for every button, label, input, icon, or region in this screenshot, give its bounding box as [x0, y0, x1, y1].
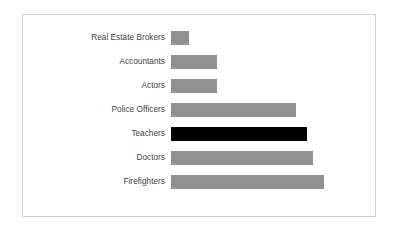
bar-track: [171, 31, 377, 45]
bar-highlighted: [171, 127, 307, 141]
bar: [171, 79, 217, 93]
bar-category-label: Real Estate Brokers: [23, 34, 171, 42]
bar-category-label: Doctors: [23, 154, 171, 162]
bar: [171, 175, 324, 189]
bar-track: [171, 103, 377, 117]
bar: [171, 31, 189, 45]
bar: [171, 55, 217, 69]
bar-track: [171, 127, 377, 141]
bar-category-label: Accountants: [23, 58, 171, 66]
bar-row: Doctors: [23, 151, 377, 165]
bar-track: [171, 79, 377, 93]
bar-row: Actors: [23, 79, 377, 93]
bar-row: Real Estate Brokers: [23, 31, 377, 45]
bar-track: [171, 175, 377, 189]
chart-frame-border: Real Estate BrokersAccountantsActorsPoli…: [22, 14, 376, 217]
bar-row: Police Officers: [23, 103, 377, 117]
bar-row: Teachers: [23, 127, 377, 141]
bar-category-label: Teachers: [23, 130, 171, 138]
bar-category-label: Police Officers: [23, 106, 171, 114]
bar-category-label: Actors: [23, 82, 171, 90]
bar-category-label: Firefighters: [23, 178, 171, 186]
bar: [171, 103, 296, 117]
bar: [171, 151, 313, 165]
bar-row: Accountants: [23, 55, 377, 69]
bar-chart-figure: Real Estate BrokersAccountantsActorsPoli…: [0, 0, 398, 235]
chart-plot-area: Real Estate BrokersAccountantsActorsPoli…: [23, 15, 377, 218]
bar-row: Firefighters: [23, 175, 377, 189]
bar-track: [171, 55, 377, 69]
bar-track: [171, 151, 377, 165]
